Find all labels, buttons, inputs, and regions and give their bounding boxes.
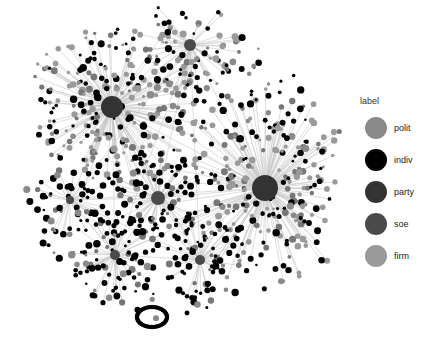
- indiv-swatch-icon: [365, 149, 387, 171]
- soe-swatch-icon: [365, 213, 387, 235]
- legend-item-party: party: [360, 176, 430, 208]
- legend: label polit indiv party soe firm: [360, 96, 430, 272]
- legend-item-firm: firm: [360, 240, 430, 272]
- legend-item-polit: polit: [360, 112, 430, 144]
- party-swatch-icon: [365, 181, 387, 203]
- polit-swatch-icon: [365, 117, 387, 139]
- legend-item-soe: soe: [360, 208, 430, 240]
- legend-item-indiv: indiv: [360, 144, 430, 176]
- legend-title: label: [360, 96, 430, 106]
- firm-swatch-icon: [365, 245, 387, 267]
